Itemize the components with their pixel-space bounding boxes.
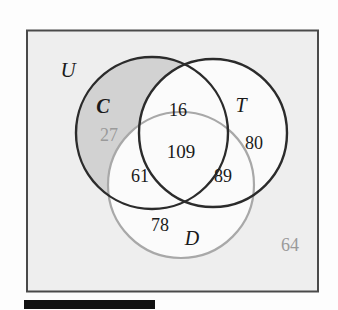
region-d-only-value: 78 <box>151 215 169 235</box>
universe-label: U <box>60 58 77 82</box>
set-d-label: D <box>184 227 200 249</box>
venn-diagram-figure: U C T D 27 16 80 109 61 89 78 64 <box>0 0 338 310</box>
region-c-and-d-value: 61 <box>131 166 149 186</box>
region-outside-value: 64 <box>281 235 299 255</box>
caption-redaction-bar <box>24 300 155 309</box>
region-c-t-d-value: 109 <box>167 141 196 162</box>
region-t-only-value: 80 <box>245 133 263 153</box>
region-t-and-d-value: 89 <box>214 166 232 186</box>
venn-diagram-svg: U C T D 27 16 80 109 61 89 78 64 <box>0 0 338 310</box>
set-t-label: T <box>235 94 248 116</box>
region-c-and-t-value: 16 <box>169 100 187 120</box>
region-c-only-value: 27 <box>100 125 118 145</box>
set-c-label: C <box>96 95 110 117</box>
